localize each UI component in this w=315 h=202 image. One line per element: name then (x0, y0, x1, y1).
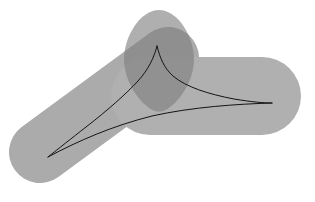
cusp-figure-svg (0, 0, 315, 202)
figure-root (0, 0, 315, 202)
